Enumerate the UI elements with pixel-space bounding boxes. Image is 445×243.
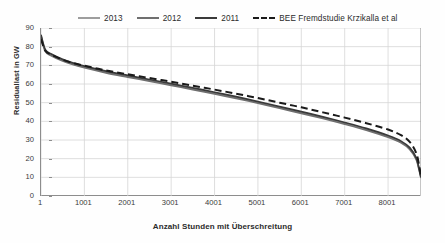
- x-tick-label: 6001: [292, 198, 309, 207]
- chart-legend: 201320122011BEE Fremdstudie Krzikalla et…: [78, 11, 418, 25]
- legend-swatch-2011-icon: [195, 17, 217, 19]
- y-tick-mark: [49, 28, 52, 29]
- y-tick-label: 90: [12, 24, 34, 32]
- x-tick-label: 4001: [205, 198, 222, 207]
- x-tick-label: 1: [38, 198, 42, 207]
- y-tick-mark: [49, 196, 52, 197]
- y-tick-mark: [49, 177, 52, 178]
- series-line-2011: [41, 35, 421, 177]
- x-tick-label: 2001: [118, 198, 135, 207]
- load-duration-chart: 201320122011BEE Fremdstudie Krzikalla et…: [0, 0, 445, 243]
- legend-swatch-2013-icon: [78, 17, 100, 19]
- x-tick-label: 5001: [248, 198, 265, 207]
- x-axis-ticks: 110012001300140015001600170018001: [0, 198, 445, 212]
- legend-item-bee[interactable]: BEE Fremdstudie Krzikalla et al: [253, 14, 397, 23]
- y-tick-mark: [49, 103, 52, 104]
- plot-svg: [41, 28, 421, 196]
- y-tick-mark: [49, 65, 52, 66]
- y-tick-mark: [49, 121, 52, 122]
- y-tick-label: 10: [12, 174, 34, 182]
- y-tick-label: 30: [12, 136, 34, 144]
- x-tick-label: 3001: [162, 198, 179, 207]
- y-tick-mark: [49, 84, 52, 85]
- series-line-2012: [41, 36, 421, 178]
- legend-item-2011[interactable]: 2011: [195, 14, 239, 23]
- y-tick-label: 20: [12, 155, 34, 163]
- x-tick-label: 7001: [335, 198, 352, 207]
- y-tick-mark: [49, 140, 52, 141]
- legend-item-2012[interactable]: 2012: [137, 14, 182, 23]
- series-line-bee: [41, 39, 421, 176]
- legend-label: 2011: [221, 14, 239, 23]
- x-axis-title: Anzahl Stunden mit Überschreitung: [0, 222, 445, 231]
- x-tick-label: 8001: [379, 198, 396, 207]
- series-line-2013: [41, 35, 421, 177]
- legend-item-2013[interactable]: 2013: [78, 14, 123, 23]
- y-tick-mark: [49, 47, 52, 48]
- x-tick-label: 1001: [75, 198, 92, 207]
- plot-area: [40, 28, 420, 196]
- legend-swatch-bee-icon: [253, 17, 275, 19]
- legend-label: 2013: [104, 14, 123, 23]
- legend-label: 2012: [163, 14, 182, 23]
- legend-label: BEE Fremdstudie Krzikalla et al: [279, 14, 397, 23]
- legend-swatch-2012-icon: [137, 17, 159, 19]
- y-tick-mark: [49, 159, 52, 160]
- y-axis-title: Residuallast in GW: [12, 34, 21, 128]
